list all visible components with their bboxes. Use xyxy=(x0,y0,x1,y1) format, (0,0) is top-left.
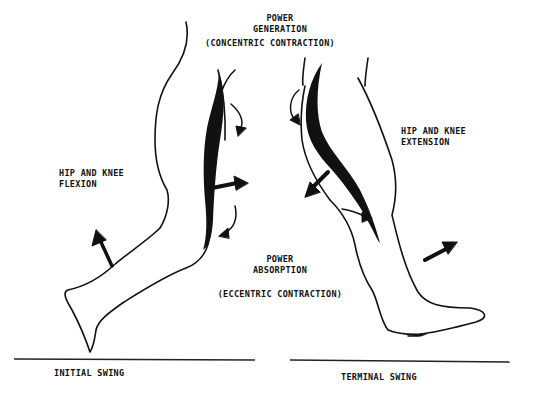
hip-knee-flexion-label: HIP AND KNEE FLEXION xyxy=(59,168,124,190)
eccentric-contraction-label: (ECCENTRIC CONTRACTION) xyxy=(208,289,352,300)
left-ground-line xyxy=(14,359,255,360)
initial-swing-label: INITIAL SWING xyxy=(54,368,124,379)
hip-knee-extension-label: HIP AND KNEE EXTENSION xyxy=(401,126,466,148)
concentric-contraction-label: (CONCENTRIC CONTRACTION) xyxy=(198,38,342,49)
hip-knee-extension-line1: HIP AND KNEE xyxy=(401,126,466,137)
power-generation-line1: POWER xyxy=(210,13,350,24)
gait-diagram xyxy=(0,0,544,397)
left-hamstring-muscle xyxy=(203,72,224,250)
power-absorption-label: POWER ABSORPTION xyxy=(230,254,330,276)
right-ground-line xyxy=(290,360,510,362)
hip-knee-flexion-line2: FLEXION xyxy=(59,179,124,190)
hip-knee-flexion-line1: HIP AND KNEE xyxy=(59,168,124,179)
power-absorption-line1: POWER xyxy=(230,254,330,265)
power-absorption-line2: ABSORPTION xyxy=(230,265,330,276)
hip-knee-extension-line2: EXTENSION xyxy=(401,137,466,148)
power-generation-line2: GENERATION xyxy=(210,24,350,35)
terminal-swing-label: TERMINAL SWING xyxy=(341,372,417,383)
power-generation-label: POWER GENERATION xyxy=(210,13,350,35)
